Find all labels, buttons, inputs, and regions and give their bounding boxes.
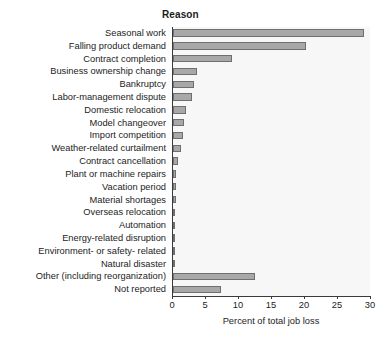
bar <box>173 209 175 216</box>
bar <box>173 273 255 280</box>
category-label: Environment- or safety- related <box>38 245 166 258</box>
x-tick <box>337 296 338 299</box>
x-tick <box>370 296 371 299</box>
bar-row <box>173 142 371 155</box>
category-label: Bankruptcy <box>119 78 166 91</box>
bar <box>173 247 175 254</box>
x-tick-label: 0 <box>169 300 174 310</box>
x-tick-label: 10 <box>233 300 243 310</box>
category-label: Plant or machine repairs <box>65 168 166 181</box>
bar-row <box>173 232 371 245</box>
category-label: Energy-related disruption <box>62 232 166 245</box>
bar-series <box>173 27 370 296</box>
bar <box>173 145 181 152</box>
x-tick-label: 25 <box>332 300 342 310</box>
bar <box>173 260 175 267</box>
category-label: Automation <box>119 219 166 232</box>
bar-row <box>173 206 371 219</box>
bar-row <box>173 53 371 66</box>
bar-row <box>173 117 371 130</box>
bar-row <box>173 181 371 194</box>
category-label: Contract cancellation <box>79 155 166 168</box>
category-label: Business ownership change <box>50 65 166 78</box>
x-tick <box>238 296 239 299</box>
bar <box>173 170 176 177</box>
bar <box>173 132 183 139</box>
bar <box>173 157 178 164</box>
bar-row <box>173 194 371 207</box>
bar-row <box>173 219 371 232</box>
bar <box>173 81 194 88</box>
category-label: Domestic relocation <box>84 104 166 117</box>
bar-row <box>173 129 371 142</box>
category-label: Weather-related curtailment <box>51 142 166 155</box>
bar-row <box>173 155 371 168</box>
category-label: Model changeover <box>90 117 167 130</box>
x-axis-title: Percent of total job loss <box>172 316 370 326</box>
bar <box>173 183 176 190</box>
category-label: Natural disaster <box>101 258 166 271</box>
bar <box>173 29 364 36</box>
bar <box>173 93 192 100</box>
bar <box>173 42 306 49</box>
bar-row <box>173 65 371 78</box>
x-tick <box>205 296 206 299</box>
bar-row <box>173 40 371 53</box>
category-label: Other (including reorganization) <box>36 270 166 283</box>
bar-row <box>173 245 371 258</box>
category-label: Seasonal work <box>105 27 166 40</box>
bar <box>173 119 184 126</box>
category-label: Material shortages <box>90 194 166 207</box>
x-tick-label: 20 <box>299 300 309 310</box>
category-label: Not reported <box>114 283 166 296</box>
bar <box>173 286 221 293</box>
x-tick-label: 15 <box>266 300 276 310</box>
category-label: Import competition <box>90 129 166 142</box>
bar-row <box>173 258 371 271</box>
chart-title: Reason <box>162 9 282 20</box>
category-label: Falling product demand <box>69 40 166 53</box>
bar-chart: Reason Seasonal workFalling product dema… <box>0 0 385 345</box>
bar <box>173 234 175 241</box>
bar <box>173 68 197 75</box>
bar-row <box>173 283 371 296</box>
bar-row <box>173 270 371 283</box>
x-tick <box>172 296 173 299</box>
bar <box>173 222 175 229</box>
category-label: Labor-management dispute <box>52 91 166 104</box>
bar <box>173 55 232 62</box>
x-tick-label: 30 <box>365 300 375 310</box>
category-label: Contract completion <box>83 53 166 66</box>
category-label: Vacation period <box>102 181 166 194</box>
bar-row <box>173 91 371 104</box>
bar-row <box>173 168 371 181</box>
bar-row <box>173 27 371 40</box>
bar-row <box>173 78 371 91</box>
x-tick <box>304 296 305 299</box>
x-tick-label: 5 <box>202 300 207 310</box>
bar <box>173 196 176 203</box>
bar-row <box>173 104 371 117</box>
bar <box>173 106 186 113</box>
category-axis-labels: Seasonal workFalling product demandContr… <box>0 27 170 296</box>
category-label: Overseas relocation <box>83 206 166 219</box>
x-tick <box>271 296 272 299</box>
